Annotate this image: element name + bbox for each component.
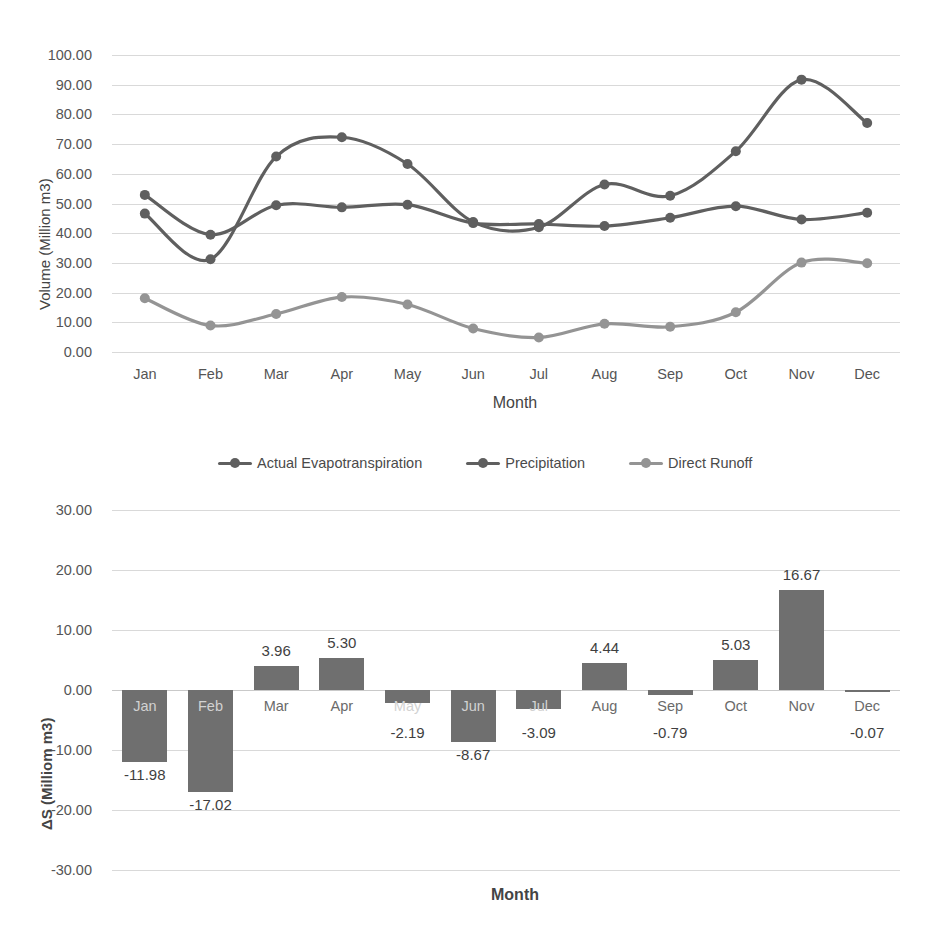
legend-item[interactable]: Precipitation — [466, 455, 585, 471]
legend-marker-icon — [218, 458, 252, 468]
series-marker — [403, 299, 413, 309]
y-axis-tick-label: 10.00 — [0, 622, 92, 638]
series-line — [145, 259, 867, 337]
bar[interactable] — [188, 690, 233, 792]
series-marker — [337, 132, 347, 142]
y-axis-tick-label: -30.00 — [0, 862, 92, 878]
bar-value-label: -3.09 — [522, 724, 556, 741]
series-marker — [600, 319, 610, 329]
bar-value-label: 3.96 — [262, 642, 291, 659]
series-marker — [534, 219, 544, 229]
bar-value-label: -11.98 — [124, 766, 165, 783]
x-axis-tick-label: Mar — [264, 698, 289, 714]
series-marker — [731, 201, 741, 211]
x-axis-tick-label: Oct — [725, 366, 748, 382]
series-marker — [731, 146, 741, 156]
bar[interactable] — [385, 690, 430, 703]
series-marker — [206, 230, 216, 240]
bar[interactable] — [451, 690, 496, 742]
line-chart-x-axis-title: Month — [493, 394, 537, 412]
series-line — [145, 79, 867, 260]
series-marker — [797, 215, 807, 225]
bar[interactable] — [122, 690, 167, 762]
series-marker — [140, 293, 150, 303]
legend-marker-icon — [629, 458, 663, 468]
series-marker — [731, 307, 741, 317]
x-axis-tick-label: May — [394, 366, 421, 382]
series-marker — [468, 218, 478, 228]
bar[interactable] — [319, 658, 364, 690]
line-chart: Volume (Million m3) 0.0010.0020.0030.004… — [0, 0, 925, 430]
x-axis-tick-label: Dec — [854, 698, 880, 714]
x-axis-tick-label: Jun — [461, 366, 484, 382]
series-marker — [862, 208, 872, 218]
series-marker — [337, 292, 347, 302]
series-marker — [140, 209, 150, 219]
y-axis-tick-label: -20.00 — [0, 802, 92, 818]
series-marker — [665, 191, 675, 201]
x-axis-tick-label: Jul — [530, 366, 549, 382]
series-marker — [271, 152, 281, 162]
series-marker — [797, 75, 807, 85]
series-marker — [206, 254, 216, 264]
bar-value-label: -17.02 — [189, 796, 232, 813]
bar-value-label: -0.79 — [653, 724, 687, 741]
series-marker — [600, 179, 610, 189]
x-axis-tick-label: Feb — [198, 366, 223, 382]
bar-chart-x-axis-title: Month — [491, 886, 539, 904]
bar-value-label: -0.07 — [850, 724, 884, 741]
legend-item[interactable]: Direct Runoff — [629, 455, 752, 471]
bar-chart: ΔS (Milliom m3) -30.00-20.00-10.000.0010… — [0, 490, 925, 941]
bar[interactable] — [648, 690, 693, 695]
legend-item-label: Direct Runoff — [668, 455, 752, 471]
series-marker — [665, 322, 675, 332]
series-marker — [797, 258, 807, 268]
series-marker — [468, 324, 478, 334]
figure-page: Volume (Million m3) 0.0010.0020.0030.004… — [0, 0, 925, 941]
bar[interactable] — [779, 590, 824, 690]
x-axis-tick-label: Dec — [854, 366, 880, 382]
series-marker — [140, 190, 150, 200]
series-marker — [403, 200, 413, 210]
bar[interactable] — [582, 663, 627, 690]
x-axis-tick-label: Mar — [264, 366, 289, 382]
x-axis-tick-label: Aug — [592, 698, 618, 714]
gridline — [112, 510, 900, 511]
y-axis-tick-label: 30.00 — [0, 502, 92, 518]
x-axis-tick-label: Apr — [331, 366, 354, 382]
x-axis-tick-label: Oct — [725, 698, 748, 714]
bar-value-label: 4.44 — [590, 639, 619, 656]
series-marker — [403, 159, 413, 169]
x-axis-tick-label: Sep — [657, 366, 683, 382]
series-marker — [665, 213, 675, 223]
bar-value-label: -8.67 — [456, 746, 490, 763]
y-axis-tick-label: 0.00 — [0, 682, 92, 698]
bar[interactable] — [713, 660, 758, 690]
x-axis-tick-label: Aug — [592, 366, 618, 382]
bar-value-label: 5.03 — [721, 636, 750, 653]
legend-item-label: Precipitation — [505, 455, 585, 471]
gridline — [112, 870, 900, 871]
series-marker — [862, 118, 872, 128]
chart-legend: Actual EvapotranspirationPrecipitationDi… — [218, 455, 752, 471]
series-marker — [600, 221, 610, 231]
legend-item-label: Actual Evapotranspiration — [257, 455, 422, 471]
series-marker — [271, 200, 281, 210]
series-marker — [862, 258, 872, 268]
bar-value-label: 5.30 — [327, 634, 356, 651]
bar[interactable] — [254, 666, 299, 690]
series-marker — [206, 321, 216, 331]
legend-item[interactable]: Actual Evapotranspiration — [218, 455, 422, 471]
y-axis-tick-label: -10.00 — [0, 742, 92, 758]
legend-marker-icon — [466, 458, 500, 468]
bar[interactable] — [516, 690, 561, 709]
series-line — [145, 195, 867, 235]
bar[interactable] — [845, 690, 890, 692]
series-marker — [337, 202, 347, 212]
x-axis-tick-label: Jan — [133, 366, 156, 382]
x-axis-tick-label: Nov — [789, 698, 815, 714]
bar-value-label: -2.19 — [390, 724, 424, 741]
x-axis-tick-label: Sep — [657, 698, 683, 714]
x-axis-tick-label: Apr — [331, 698, 354, 714]
series-marker — [534, 332, 544, 342]
